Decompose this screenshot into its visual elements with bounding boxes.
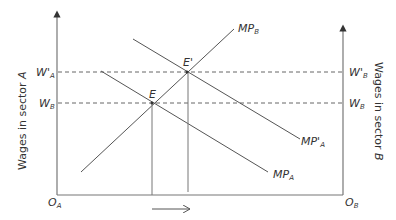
- right-axis-title-var: B: [372, 153, 385, 161]
- axes: [57, 14, 343, 195]
- mp-b-curve: [81, 29, 234, 172]
- mp-a-curve: [101, 71, 268, 172]
- w-prime-a-sub: A: [49, 72, 55, 80]
- origin-a-main: O: [48, 196, 57, 209]
- w-b-left-sub: B: [50, 103, 55, 111]
- mp-prime-a-label: MP'A: [301, 135, 325, 149]
- mp-b-sub: B: [254, 28, 259, 36]
- right-axis-title-text: Wages in sector: [372, 62, 385, 153]
- w-prime-b-label: W'B: [349, 66, 368, 80]
- origin-a-label: OA: [48, 196, 62, 210]
- w-prime-b-main: W': [349, 66, 363, 79]
- curves: [81, 29, 300, 172]
- origin-b-sub: B: [354, 202, 359, 210]
- wage-lines: [58, 72, 343, 103]
- mp-a-label: MPA: [273, 168, 294, 182]
- w-prime-a-label: W'A: [36, 66, 55, 80]
- origin-b-label: OB: [345, 196, 359, 210]
- mp-b-main: MP: [238, 22, 254, 35]
- e-prime-point: [186, 71, 189, 74]
- w-prime-b-sub: B: [363, 72, 368, 80]
- w-b-right-label: WB: [349, 97, 365, 111]
- w-prime-a-main: W': [36, 66, 50, 79]
- vertical-lines: [152, 72, 188, 195]
- left-axis-title-var: A: [16, 71, 29, 80]
- w-b-right-sub: B: [360, 103, 365, 111]
- e-point: [151, 102, 154, 105]
- mp-a-main: MP: [273, 168, 289, 181]
- mp-prime-a-curve: [133, 39, 300, 139]
- e-prime-label: E': [183, 56, 193, 69]
- mp-b-label: MPB: [238, 22, 259, 36]
- left-axis-title-text: Wages in sector: [16, 79, 29, 170]
- mp-prime-a-main: MP': [301, 135, 320, 148]
- w-b-left-label: WB: [39, 97, 55, 111]
- origin-a-sub: A: [56, 202, 62, 210]
- e-label: E: [149, 88, 156, 101]
- right-axis-title: Wages in sector B: [372, 62, 385, 161]
- origin-b-main: O: [345, 196, 354, 209]
- mp-a-sub: A: [288, 174, 294, 182]
- left-axis-title: Wages in sector A: [16, 71, 29, 170]
- labor-market-diagram: E E' W'A WB W'B WB MPB MPA MP'A OA OB Wa…: [0, 0, 396, 220]
- mp-prime-a-sub: A: [319, 141, 325, 149]
